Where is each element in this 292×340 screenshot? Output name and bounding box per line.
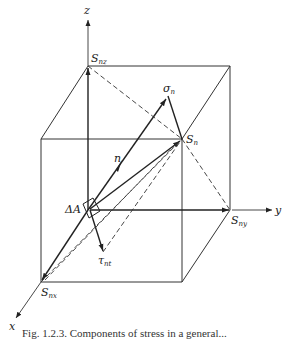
sigma-n-label: σn — [163, 82, 176, 96]
sn-label: Sn — [186, 133, 199, 147]
sn-vector — [90, 141, 180, 209]
snx-vector — [42, 210, 88, 280]
stress-vector-diagram: z y x Snz Sn Sny Snx σn τnt n ΔA — [0, 0, 292, 340]
y-axis-label: y — [274, 204, 282, 217]
x-axis — [16, 282, 41, 318]
sny-label: Sny — [231, 214, 248, 228]
tau-nt-label: τnt — [98, 254, 112, 268]
x-axis-label: x — [9, 320, 16, 333]
n-label: n — [114, 152, 121, 165]
snz-label: Snz — [91, 52, 107, 66]
delta-a-label: ΔA — [64, 203, 81, 216]
z-axis-label: z — [83, 4, 90, 17]
component-vectors — [42, 68, 229, 280]
figure-caption: Fig. 1.2.3. Components of stress in a ge… — [22, 327, 227, 339]
n-direction-line — [88, 99, 166, 210]
snx-label: Snx — [41, 286, 57, 300]
sigma-to-sn-line — [168, 96, 182, 139]
